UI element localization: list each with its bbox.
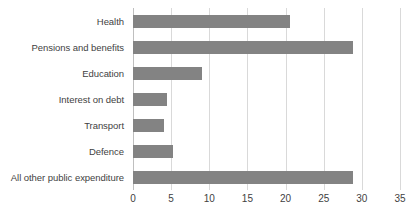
value-axis: 05101520253035 bbox=[133, 192, 400, 212]
category-label-row: Transport bbox=[0, 112, 129, 138]
bars-layer bbox=[133, 8, 400, 190]
category-label-transport: Transport bbox=[84, 120, 124, 131]
bar-chart: Health Pensions and benefits Education I… bbox=[0, 0, 414, 223]
category-label-row: Pensions and benefits bbox=[0, 34, 129, 60]
x-tick-label-10: 10 bbox=[204, 192, 215, 206]
category-label-all-other-public-expenditure: All other public expenditure bbox=[11, 172, 124, 183]
x-tick-label-15: 15 bbox=[242, 192, 253, 206]
bar-row bbox=[133, 138, 400, 164]
bar-row bbox=[133, 60, 400, 86]
category-label-defence: Defence bbox=[89, 146, 124, 157]
category-label-interest-on-debt: Interest on debt bbox=[59, 94, 124, 105]
bar-all-other-public-expenditure[interactable] bbox=[133, 171, 353, 184]
bar-row bbox=[133, 86, 400, 112]
category-label-row: All other public expenditure bbox=[0, 164, 129, 190]
category-label-row: Education bbox=[0, 60, 129, 86]
bar-pensions-and-benefits[interactable] bbox=[133, 41, 353, 54]
category-axis: Health Pensions and benefits Education I… bbox=[0, 8, 129, 190]
category-label-health: Health bbox=[97, 16, 124, 27]
category-label-pensions-and-benefits: Pensions and benefits bbox=[32, 42, 124, 53]
bar-row bbox=[133, 112, 400, 138]
category-label-row: Defence bbox=[0, 138, 129, 164]
bar-health[interactable] bbox=[133, 15, 290, 28]
x-tick-label-20: 20 bbox=[280, 192, 291, 206]
category-label-row: Health bbox=[0, 8, 129, 34]
x-tick-label-0: 0 bbox=[130, 192, 136, 206]
bar-row bbox=[133, 34, 400, 60]
x-tick-label-30: 30 bbox=[356, 192, 367, 206]
bar-education[interactable] bbox=[133, 67, 202, 80]
bar-transport[interactable] bbox=[133, 119, 164, 132]
bar-row bbox=[133, 8, 400, 34]
x-tick-label-25: 25 bbox=[318, 192, 329, 206]
plot-area bbox=[133, 8, 400, 190]
category-label-row: Interest on debt bbox=[0, 86, 129, 112]
category-label-education: Education bbox=[82, 68, 124, 79]
x-tick-label-5: 5 bbox=[168, 192, 174, 206]
bar-row bbox=[133, 164, 400, 190]
gridline-35 bbox=[400, 8, 401, 190]
bar-defence[interactable] bbox=[133, 145, 173, 158]
x-tick-label-35: 35 bbox=[394, 192, 405, 206]
bar-interest-on-debt[interactable] bbox=[133, 93, 167, 106]
